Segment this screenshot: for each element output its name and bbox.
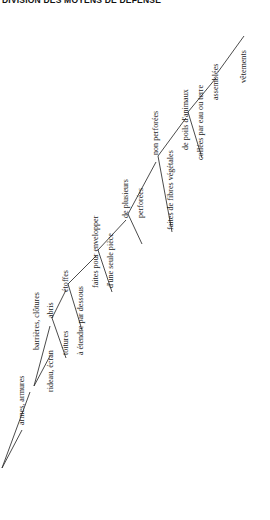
tree-node: de poils d'animaux (182, 89, 190, 150)
tree-link (128, 214, 142, 244)
tree-node: assemblées (212, 64, 220, 100)
tree-node: rideau, écran (47, 350, 55, 392)
tree-node: faites pour envelopper (92, 216, 100, 288)
tree-node: toitures (62, 331, 70, 355)
tree-link (2, 430, 22, 468)
tree-node: étoffes (62, 270, 70, 292)
tree-node: d'une seule pièce (107, 233, 115, 288)
tree-node: faites de fibres végétales (167, 150, 175, 230)
tree-connectors (0, 0, 270, 520)
tree-node: vêtements (240, 50, 248, 83)
tree-node: abris (47, 302, 55, 318)
tree-node: barrières, clôtures (33, 292, 41, 350)
tree-node: de plusieurs (122, 179, 130, 218)
tree-node: armes, armures (18, 376, 26, 425)
diagram-canvas: DIVISION DES MOYENS DE DÉFENSE armes, ar… (0, 0, 270, 520)
tree-node: collées par eau ou terre (197, 85, 205, 160)
tree-node: à étendre par dessous (77, 286, 85, 355)
tree-node: perforées (137, 188, 145, 218)
tree-node: non perforées (152, 111, 160, 155)
